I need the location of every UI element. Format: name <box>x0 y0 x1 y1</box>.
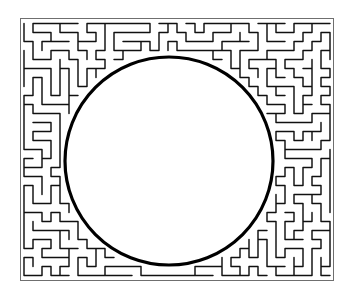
central-disc <box>65 57 273 265</box>
figure-root: with that of a class (0/10). <box>0 0 354 296</box>
maze-plate <box>0 0 354 296</box>
